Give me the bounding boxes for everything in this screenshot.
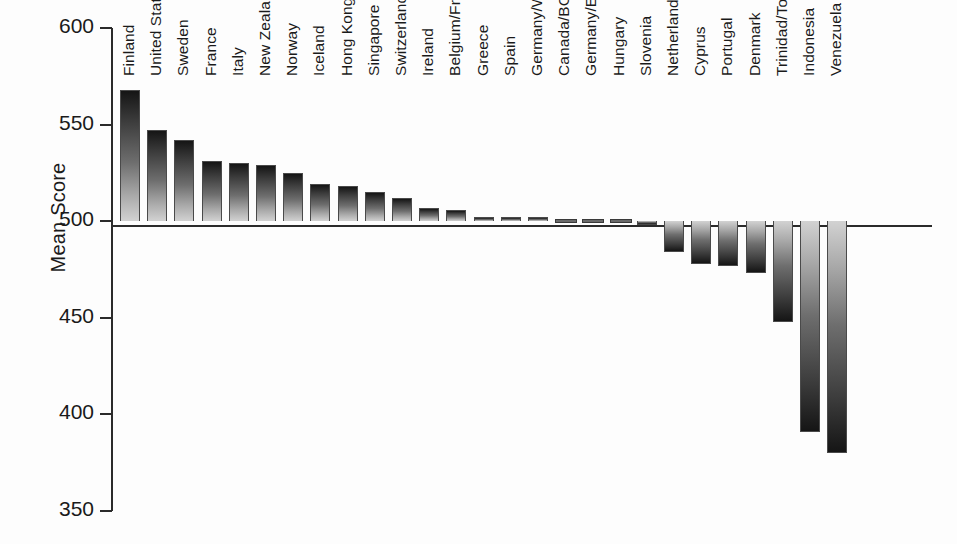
category-label: Germany/W — [530, 0, 544, 76]
bar — [174, 140, 194, 221]
category-label: Hungary — [612, 17, 626, 76]
y-tick-mark — [100, 220, 112, 222]
category-label: Indonesia — [802, 8, 816, 76]
category-label: Switzerland — [394, 0, 408, 76]
y-tick-label: 400 — [36, 400, 94, 424]
bar — [310, 184, 330, 221]
bar — [202, 161, 222, 221]
bar — [474, 217, 494, 221]
y-tick-label: 500 — [36, 207, 94, 231]
bar — [664, 221, 684, 252]
bar — [773, 221, 793, 321]
bar — [691, 221, 711, 264]
y-tick-mark — [100, 413, 112, 415]
category-label: Finland — [122, 24, 136, 76]
bar — [419, 208, 439, 222]
category-label: United States — [149, 0, 163, 76]
bar — [365, 192, 385, 221]
bar — [610, 219, 632, 223]
bar — [338, 186, 358, 221]
category-label: Iceland — [312, 25, 326, 76]
bar — [229, 163, 249, 221]
category-label: Singapore — [367, 4, 381, 76]
y-tick-label: 350 — [36, 497, 94, 521]
bar — [283, 173, 303, 221]
category-label: Germany/E — [584, 0, 598, 76]
bar — [120, 90, 140, 221]
category-label: Slovenia — [639, 16, 653, 76]
category-label: Canada/BC — [557, 0, 571, 76]
bar — [637, 221, 657, 225]
y-tick-label: 600 — [36, 14, 94, 38]
category-label: Hong Kong — [340, 0, 354, 76]
y-tick-mark — [100, 317, 112, 319]
bar — [827, 221, 847, 453]
bar-chart: Mean Score 600550500450400350 FinlandUni… — [0, 0, 957, 544]
category-label: Cyprus — [693, 26, 707, 76]
bar — [555, 219, 577, 223]
y-tick-mark — [100, 124, 112, 126]
y-tick-mark — [100, 510, 112, 512]
category-label: Sweden — [176, 19, 190, 76]
plot-area: FinlandUnited StatesSwedenFranceItalyNew… — [112, 28, 940, 511]
bar — [582, 219, 604, 223]
category-label: Norway — [285, 23, 299, 76]
category-label: Italy — [231, 47, 245, 76]
category-label: Belgium/Fr — [448, 0, 462, 76]
y-tick-label: 550 — [36, 111, 94, 135]
category-label: Denmark — [748, 12, 762, 76]
category-label: Netherlands — [666, 0, 680, 76]
bar — [446, 210, 466, 222]
bar — [147, 130, 167, 221]
category-label: Trinidad/Tobago — [775, 0, 789, 76]
category-label: Portugal — [720, 17, 734, 76]
bar — [256, 165, 276, 221]
bar — [800, 221, 820, 432]
y-tick-label: 450 — [36, 304, 94, 328]
category-label: Venezuela — [829, 3, 843, 76]
category-label: Greece — [476, 25, 490, 76]
bar — [528, 217, 548, 221]
y-tick-mark — [100, 27, 112, 29]
bar — [501, 217, 521, 221]
category-label: Ireland — [421, 28, 435, 76]
bar — [718, 221, 738, 265]
bar — [746, 221, 766, 273]
category-label: New Zealand — [258, 0, 272, 76]
category-label: Spain — [503, 36, 517, 76]
category-label: France — [204, 27, 218, 76]
bar — [392, 198, 412, 221]
